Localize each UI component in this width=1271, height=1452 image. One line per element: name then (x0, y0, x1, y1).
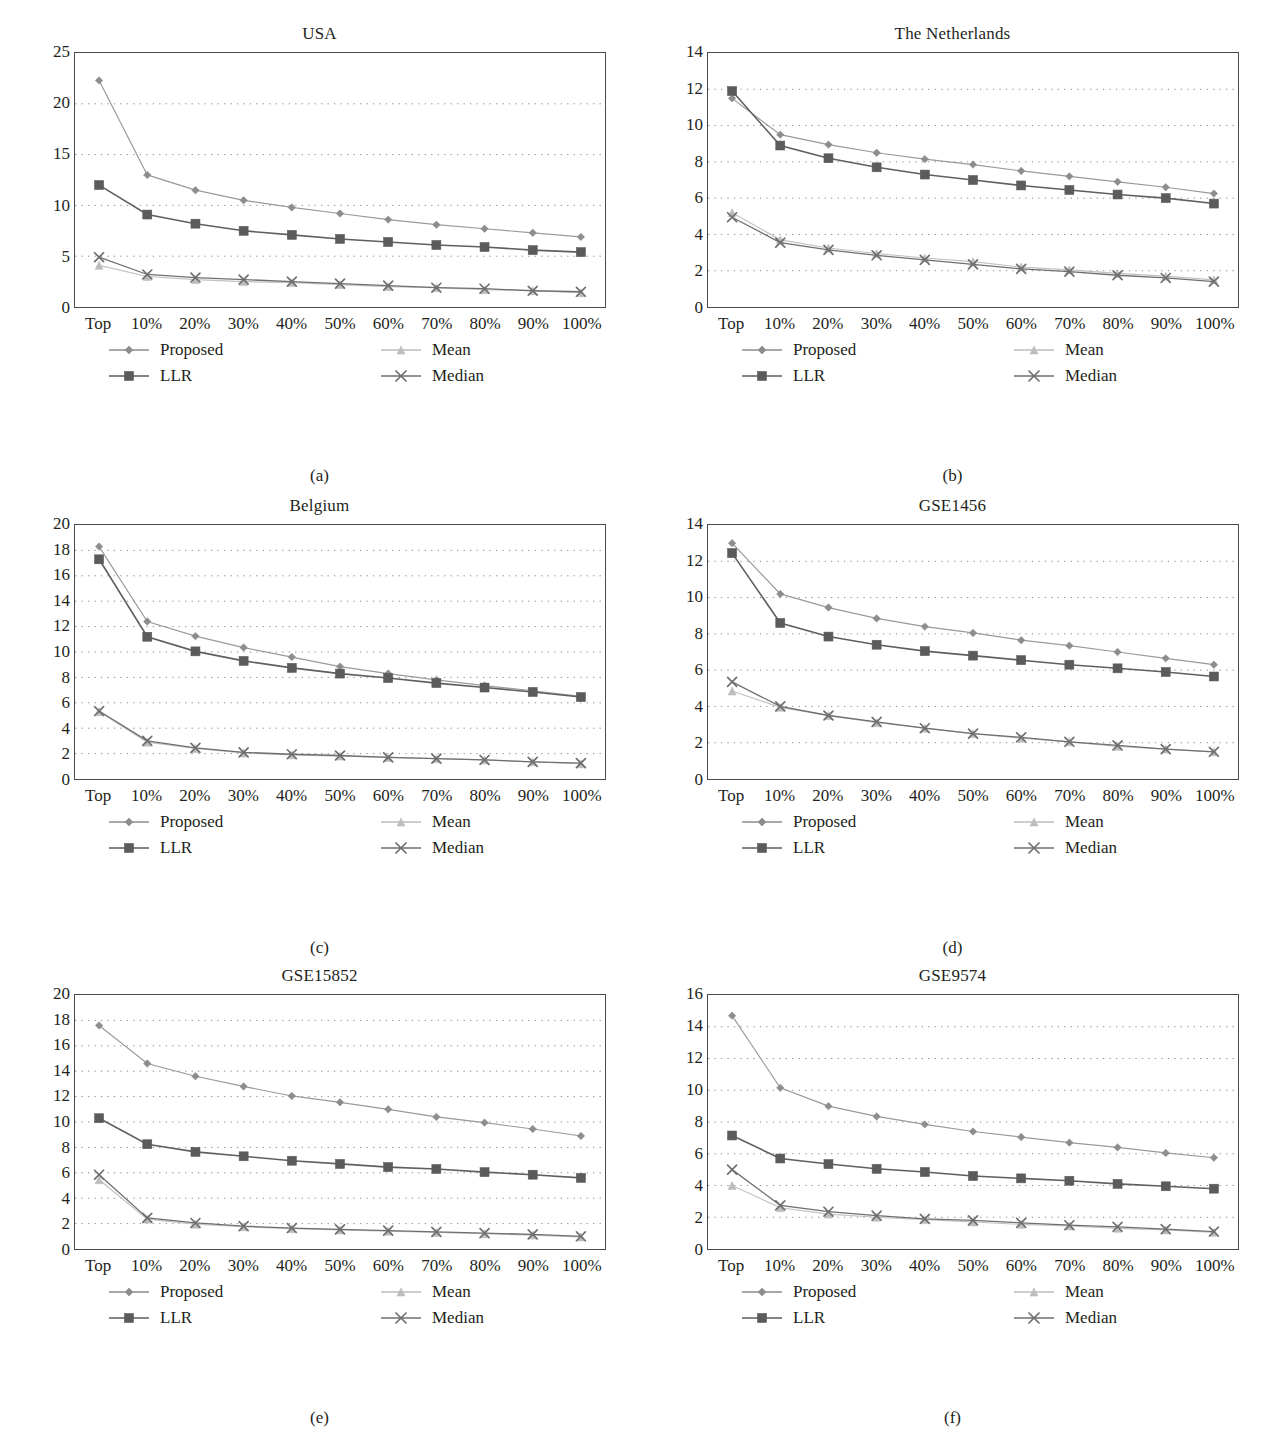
y-tick-label: 2 (695, 733, 704, 753)
plot-frame-d (707, 524, 1239, 780)
x-tick-label: 80% (469, 1256, 500, 1276)
y-tick-label: 0 (62, 1240, 71, 1260)
y-axis-ticks-e: 02468101214161820 (30, 994, 70, 1250)
plot-area-d: Average absolute t-score02468101214 Top1… (707, 524, 1239, 780)
y-tick-label: 6 (62, 1163, 71, 1183)
x-axis-ticks-b: Top10%20%30%40%50%60%70%80%90%100% (707, 312, 1239, 340)
x-tick-label: 40% (276, 786, 307, 806)
y-tick-label: 0 (62, 770, 71, 790)
plot-area-b: Average absolute t-score02468101214 Top1… (707, 52, 1239, 308)
legend-marker-triangle-icon (380, 1283, 422, 1301)
y-tick-label: 8 (695, 1112, 704, 1132)
y-tick-label: 15 (53, 144, 70, 164)
panel-title-e: GSE15852 (12, 966, 627, 986)
panel-title-a: USA (12, 24, 627, 44)
legend-marker-triangle-icon (1013, 341, 1055, 359)
x-tick-label: 40% (276, 314, 307, 334)
chart-panel-a: USAAverage absolute t-score0510152025 To… (12, 20, 627, 490)
legend-item-proposed: Proposed (741, 340, 856, 360)
legend-marker-x-icon (380, 839, 422, 857)
y-tick-label: 4 (695, 697, 704, 717)
y-axis-ticks-b: 02468101214 (663, 52, 703, 308)
legend-item-proposed: Proposed (741, 1282, 856, 1302)
x-tick-label: 10% (764, 314, 795, 334)
y-tick-label: 12 (53, 1086, 70, 1106)
chart-panel-d: GSE1456Average absolute t-score024681012… (645, 492, 1260, 962)
y-tick-label: 6 (695, 188, 704, 208)
legend-label: LLR (793, 1308, 825, 1328)
legend-marker-triangle-icon (380, 813, 422, 831)
legend-item-proposed: Proposed (108, 812, 223, 832)
y-tick-label: 4 (62, 1189, 71, 1209)
legend-marker-diamond-icon (108, 1283, 150, 1301)
x-tick-label: Top (718, 1256, 744, 1276)
legend-marker-triangle-icon (1013, 813, 1055, 831)
legend-marker-x-icon (1013, 839, 1055, 857)
legend-label: Proposed (160, 812, 223, 832)
y-tick-label: 0 (695, 770, 704, 790)
x-tick-label: 90% (518, 314, 549, 334)
panel-title-c: Belgium (12, 496, 627, 516)
legend-marker-x-icon (380, 1309, 422, 1327)
panel-caption-e: (e) (12, 1408, 627, 1428)
panel-title-f: GSE9574 (645, 966, 1260, 986)
chart-panel-f: GSE9574Average absolute t-score024681012… (645, 962, 1260, 1432)
x-tick-label: 60% (373, 314, 404, 334)
x-tick-label: 50% (324, 1256, 355, 1276)
y-tick-label: 0 (695, 1240, 704, 1260)
x-tick-label: 40% (909, 1256, 940, 1276)
panel-caption-f: (f) (645, 1408, 1260, 1428)
x-tick-label: Top (85, 786, 111, 806)
legend-item-llr: LLR (108, 366, 192, 386)
y-tick-label: 16 (53, 565, 70, 585)
y-tick-label: 10 (686, 115, 703, 135)
legend-marker-diamond-icon (108, 813, 150, 831)
y-tick-label: 4 (695, 1176, 704, 1196)
plot-frame-b (707, 52, 1239, 308)
x-tick-label: 20% (179, 1256, 210, 1276)
legend-label: Median (1065, 366, 1117, 386)
plot-frame-f (707, 994, 1239, 1250)
legend-label: Mean (1065, 340, 1104, 360)
x-tick-label: Top (85, 314, 111, 334)
x-tick-label: 40% (909, 786, 940, 806)
x-tick-label: 30% (228, 1256, 259, 1276)
legend-item-proposed: Proposed (741, 812, 856, 832)
legend-item-llr: LLR (741, 1308, 825, 1328)
x-tick-label: 10% (764, 786, 795, 806)
x-tick-label: 90% (518, 1256, 549, 1276)
legend-label: Mean (432, 812, 471, 832)
legend-marker-x-icon (380, 367, 422, 385)
legend-item-mean: Mean (1013, 812, 1104, 832)
figure-multi-panel-charts: USAAverage absolute t-score0510152025 To… (0, 0, 1271, 1452)
x-tick-label: 100% (562, 314, 602, 334)
y-tick-label: 10 (686, 587, 703, 607)
x-tick-label: 50% (957, 786, 988, 806)
legend-item-median: Median (1013, 838, 1117, 858)
y-tick-label: 0 (62, 298, 71, 318)
y-tick-label: 14 (686, 42, 703, 62)
y-tick-label: 4 (62, 719, 71, 739)
legend-label: Median (432, 1308, 484, 1328)
y-tick-label: 18 (53, 1010, 70, 1030)
legend-item-median: Median (380, 1308, 484, 1328)
legend-label: Mean (1065, 1282, 1104, 1302)
plot-area-c: Average absolute t-score0246810121416182… (74, 524, 606, 780)
legend-label: Proposed (793, 812, 856, 832)
x-tick-label: 20% (179, 314, 210, 334)
legend-label: Mean (432, 340, 471, 360)
x-tick-label: 70% (421, 314, 452, 334)
y-tick-label: 12 (686, 1048, 703, 1068)
y-tick-label: 10 (53, 196, 70, 216)
x-tick-label: 40% (909, 314, 940, 334)
x-tick-label: 70% (421, 786, 452, 806)
x-tick-label: 60% (373, 786, 404, 806)
legend-item-mean: Mean (380, 340, 471, 360)
legend-marker-diamond-icon (741, 341, 783, 359)
x-tick-label: 100% (1195, 786, 1235, 806)
x-tick-label: 20% (812, 1256, 843, 1276)
legend-label: Proposed (160, 340, 223, 360)
legend-c: Proposed LLR Mean (108, 812, 578, 870)
x-tick-label: 30% (861, 786, 892, 806)
legend-label: Median (432, 366, 484, 386)
